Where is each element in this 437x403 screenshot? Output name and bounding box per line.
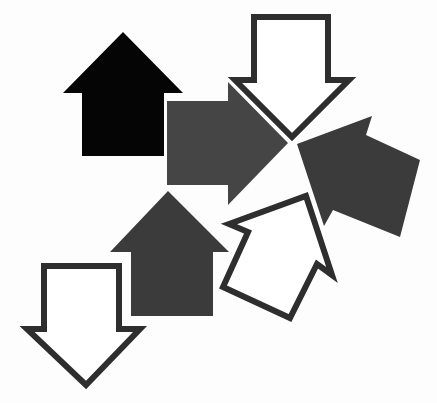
outline-tilted-arrow-icon [223,196,332,318]
darkgray-up-arrow-icon [110,191,229,316]
arrows-illustration [0,0,437,403]
black-up-arrow-icon [63,32,183,156]
clipart-canvas [0,0,437,403]
outline-down-arrow-bottom-icon [27,266,140,385]
